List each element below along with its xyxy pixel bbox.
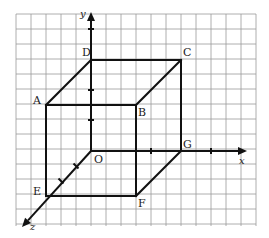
y-axis-arrowhead-icon (87, 12, 95, 21)
z-axis-label: z (29, 221, 36, 232)
edge-FG (136, 151, 181, 196)
cube-edges (46, 60, 181, 196)
edge-BC (136, 60, 181, 105)
vertex-label-C: C (183, 46, 191, 59)
vertex-label-F: F (138, 197, 146, 210)
vertex-label-D: D (82, 46, 91, 59)
x-axis-label: x (239, 155, 245, 166)
x-axis-arrowhead-icon (238, 147, 247, 155)
vertex-labels: OABCDEFG (32, 46, 192, 210)
vertex-label-E: E (33, 185, 41, 198)
cube-figure-canvas: OABCDEFG x y z (0, 0, 269, 238)
vertex-label-B: B (138, 106, 146, 119)
cube-diagram: OABCDEFG x y z (0, 0, 269, 238)
edge-AD (46, 60, 91, 105)
vertex-label-O: O (94, 153, 103, 166)
vertex-label-A: A (32, 94, 42, 107)
y-axis-label: y (79, 8, 86, 19)
vertex-label-G: G (183, 138, 192, 151)
